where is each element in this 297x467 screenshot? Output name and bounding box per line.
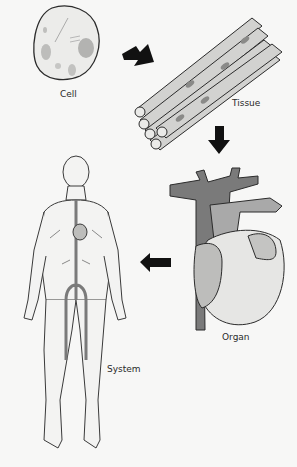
system-body-illustration (24, 156, 126, 448)
tissue-label: Tissue (232, 98, 260, 108)
tissue-illustration (135, 18, 282, 150)
arrow-tissue-to-organ-icon (208, 126, 230, 154)
organ-heart-illustration (170, 168, 284, 330)
levels-of-organization-diagram: Cell Tissue Organ System (0, 0, 297, 467)
system-label: System (107, 364, 141, 374)
cell-illustration (34, 6, 99, 80)
cell-label: Cell (60, 89, 77, 99)
arrow-organ-to-system-icon (140, 253, 171, 272)
organ-label: Organ (222, 332, 250, 342)
arrow-cell-to-tissue-icon (122, 44, 154, 66)
diagram-artwork (0, 0, 297, 467)
